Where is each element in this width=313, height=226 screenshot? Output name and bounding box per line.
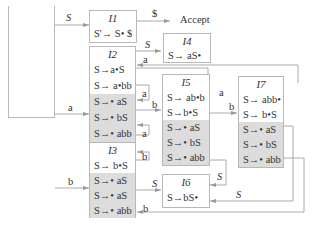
state-title: I6	[163, 175, 209, 190]
kernel-item: S'→ S• $	[90, 26, 136, 42]
kernel-item: S→b•S	[163, 105, 209, 120]
closure-item: S→• abb	[90, 126, 135, 142]
kernel-item: S→ abb•	[239, 92, 283, 107]
state-title: I5	[163, 75, 209, 90]
state-title: I4	[164, 34, 210, 49]
edge-label: S	[236, 189, 241, 201]
edge-label: $	[152, 8, 157, 20]
state-title: I2	[90, 47, 135, 62]
closure-item: S→• abb	[90, 203, 135, 218]
closure-item: S→• aS	[90, 173, 135, 188]
kernel-item: S→ ab•b	[163, 90, 209, 105]
closure-item: S→• aS	[90, 94, 135, 110]
edge-label: b	[68, 176, 73, 188]
kernel-item: S→ b•S	[90, 158, 135, 173]
accept-label: Accept	[180, 14, 210, 26]
edge-label: S	[145, 39, 150, 51]
kernel-item: S→a•S	[90, 62, 135, 78]
state-i2[interactable]: I2 S→a•S S→ a•bb S→• aS S→• bS S→• abb	[89, 46, 136, 144]
closure-item: S→• bS	[239, 137, 283, 152]
closure-item: S→• bS	[90, 110, 135, 126]
state-i4[interactable]: I4 S→ aS•	[163, 33, 211, 63]
edge-label: a	[142, 128, 147, 140]
edge-label: b	[152, 99, 157, 111]
edge-label: b	[143, 203, 148, 215]
edge-label: a	[142, 88, 147, 100]
state-title: I7	[239, 77, 283, 92]
kernel-item: S→bS•	[163, 190, 209, 206]
state-i7[interactable]: I7 S→ abb• S→ b•S S→• aS S→• bS S→• abb	[238, 76, 284, 168]
closure-item: S→• aS	[90, 188, 135, 203]
closure-item: S→• abb	[239, 152, 283, 167]
edge-label: b	[229, 101, 234, 113]
edge-label: b	[142, 151, 147, 163]
kernel-item: S→ a•bb	[90, 78, 135, 94]
closure-item: S→• aS	[163, 120, 209, 135]
state-i0-body	[8, 6, 55, 118]
kernel-item: S→ aS•	[164, 49, 210, 63]
edge-label: a	[68, 102, 73, 114]
state-i6[interactable]: I6 S→bS•	[162, 174, 210, 208]
state-i5[interactable]: I5 S→ ab•b S→b•S S→• aS S→• bS S→• abb	[162, 74, 210, 166]
state-i1[interactable]: I1 S'→ S• $	[89, 10, 137, 43]
state-i3[interactable]: I3 S→ b•S S→• aS S→• aS S→• abb	[89, 142, 136, 218]
edge-label: S	[217, 171, 222, 183]
edge-label: a	[219, 87, 224, 99]
closure-item: S→• bS	[163, 135, 209, 150]
kernel-item: S→ b•S	[239, 107, 283, 122]
closure-item: S→• abb	[163, 150, 209, 165]
state-title: I1	[90, 11, 136, 26]
state-title: I3	[90, 143, 135, 158]
closure-item: S→• aS	[239, 122, 283, 137]
edge-label: a	[143, 54, 148, 66]
edge-label: S	[66, 12, 71, 24]
edge-label: S	[152, 178, 157, 190]
